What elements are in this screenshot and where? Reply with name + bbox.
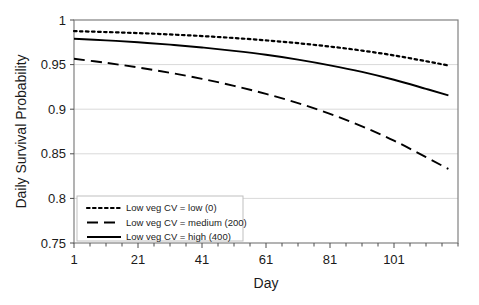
y-tick-label: 1 — [59, 13, 66, 28]
legend-label-1: Low veg CV = medium (200) — [126, 217, 247, 228]
x-tick-label: 41 — [195, 252, 209, 267]
y-axis-tick-labels: 0.750.80.850.90.951 — [41, 13, 66, 251]
legend-label-2: Low veg CV = high (400) — [126, 231, 231, 242]
y-axis-title: Daily Survival Probability — [13, 54, 29, 208]
y-tick-label: 0.8 — [48, 191, 66, 206]
y-tick-label: 0.85 — [41, 146, 66, 161]
x-tick-label: 1 — [70, 252, 77, 267]
y-tick-label: 0.9 — [48, 102, 66, 117]
chart-figure: 0.750.80.850.90.951 121416181101 Daily S… — [0, 0, 479, 305]
x-tick-label: 21 — [131, 252, 145, 267]
x-tick-label: 81 — [323, 252, 337, 267]
y-tick-label: 0.75 — [41, 236, 66, 251]
legend-label-0: Low veg CV = low (0) — [126, 202, 217, 213]
y-tick-label: 0.95 — [41, 57, 66, 72]
x-axis-tick-marks — [74, 243, 458, 248]
survival-probability-line-chart: 0.750.80.850.90.951 121416181101 Daily S… — [0, 0, 479, 305]
x-axis-title: Day — [254, 275, 279, 291]
x-axis-tick-labels: 121416181101 — [70, 252, 404, 267]
x-tick-label: 101 — [383, 252, 405, 267]
x-tick-label: 61 — [259, 252, 273, 267]
legend: Low veg CV = low (0)Low veg CV = medium … — [77, 196, 247, 242]
